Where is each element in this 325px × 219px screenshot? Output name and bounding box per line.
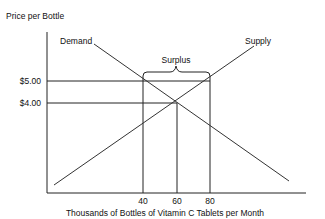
tick-60: 60 — [172, 196, 182, 206]
tick-80: 80 — [205, 196, 215, 206]
demand-label: Demand — [60, 36, 92, 46]
price-4-label: $4.00 — [20, 98, 42, 108]
demand-curve — [94, 44, 289, 181]
price-5-label: $5.00 — [20, 76, 42, 86]
surplus-label: Surplus — [162, 55, 191, 65]
tick-40: 40 — [138, 196, 148, 206]
supply-demand-chart: Price per Bottle Demand Supply Surplus $… — [0, 0, 325, 219]
y-axis-label: Price per Bottle — [6, 11, 64, 21]
supply-label: Supply — [245, 36, 272, 46]
x-axis-label: Thousands of Bottles of Vitamin C Tablet… — [66, 208, 264, 218]
supply-curve — [54, 46, 254, 185]
surplus-brace — [143, 66, 210, 81]
